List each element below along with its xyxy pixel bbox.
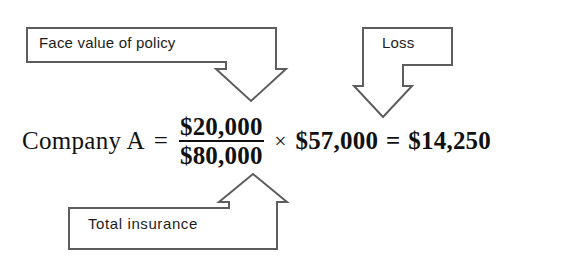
equation-multiplier: $57,000 xyxy=(295,127,378,155)
equation-equals-sign-2: = xyxy=(386,127,400,155)
equation: Company A = $20,000 $80,000 × $57,000 = … xyxy=(22,112,491,170)
equation-result: $14,250 xyxy=(408,127,491,155)
total-insurance-callout-shape xyxy=(69,174,287,249)
equation-subject: Company A xyxy=(22,127,145,155)
face-value-callout-label: Face value of policy xyxy=(39,34,176,51)
equation-equals-sign: = xyxy=(154,127,168,155)
figure-canvas: Face value of policy Loss Total insuranc… xyxy=(0,0,575,265)
equation-times-sign: × xyxy=(275,129,287,154)
fraction-denominator: $80,000 xyxy=(179,143,264,169)
equation-fraction: $20,000 $80,000 xyxy=(179,114,264,169)
total-insurance-callout-label: Total insurance xyxy=(88,215,198,232)
loss-callout-label: Loss xyxy=(382,34,415,51)
fraction-numerator: $20,000 xyxy=(179,114,264,140)
